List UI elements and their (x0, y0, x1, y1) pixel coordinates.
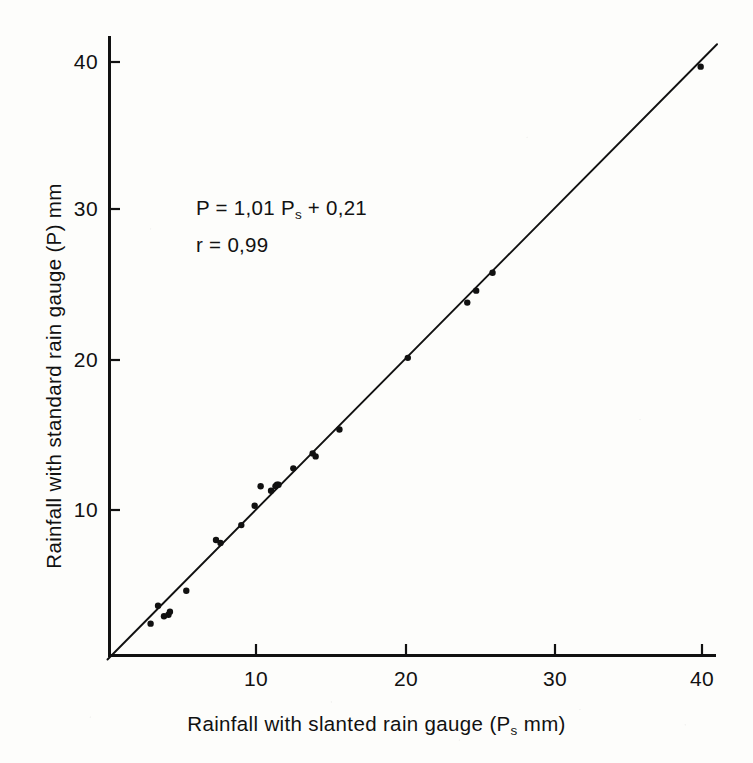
data-point (336, 426, 342, 432)
plot-canvas (0, 0, 753, 763)
data-point (290, 465, 296, 471)
data-point (238, 522, 244, 528)
x-tick-label-20: 20 (381, 667, 431, 691)
data-point (312, 453, 318, 459)
figure-scatter-plot: 40 30 20 10 10 20 30 40 P = 1,01 Ps + 0,… (0, 0, 753, 763)
x-axis-title-suffix: mm) (518, 712, 566, 735)
equation-prefix: P = 1,01 P (196, 196, 295, 219)
regression-line (108, 44, 718, 659)
data-point (464, 299, 470, 305)
x-tick-label-40: 40 (677, 667, 727, 691)
data-point (697, 63, 703, 69)
regression-annotation: P = 1,01 Ps + 0,21 r = 0,99 (196, 193, 367, 260)
x-axis-title: Rainfall with slanted rain gauge (Ps mm) (0, 712, 753, 738)
x-axis-title-subscript: s (511, 723, 518, 738)
data-point (489, 270, 495, 276)
data-point (155, 603, 161, 609)
equation-suffix: + 0,21 (302, 196, 367, 219)
x-axis-ticks (256, 644, 702, 655)
equation-subscript: s (295, 207, 302, 222)
data-point-group (147, 63, 703, 626)
data-point (217, 540, 223, 546)
data-point (405, 355, 411, 361)
data-point (257, 483, 263, 489)
data-point (147, 620, 153, 626)
x-tick-label-30: 30 (530, 667, 580, 691)
data-point (275, 482, 281, 488)
data-point (251, 502, 257, 508)
regression-equation: P = 1,01 Ps + 0,21 (196, 193, 367, 230)
axis-lines (108, 36, 716, 656)
data-point (473, 287, 479, 293)
correlation-value: r = 0,99 (196, 230, 367, 260)
x-tick-label-10: 10 (231, 667, 281, 691)
data-point (167, 609, 173, 615)
y-axis-title: Rainfall with standard rain gauge (P) mm (42, 56, 66, 696)
x-axis-title-prefix: Rainfall with slanted rain gauge (P (187, 712, 510, 735)
data-point (183, 588, 189, 594)
